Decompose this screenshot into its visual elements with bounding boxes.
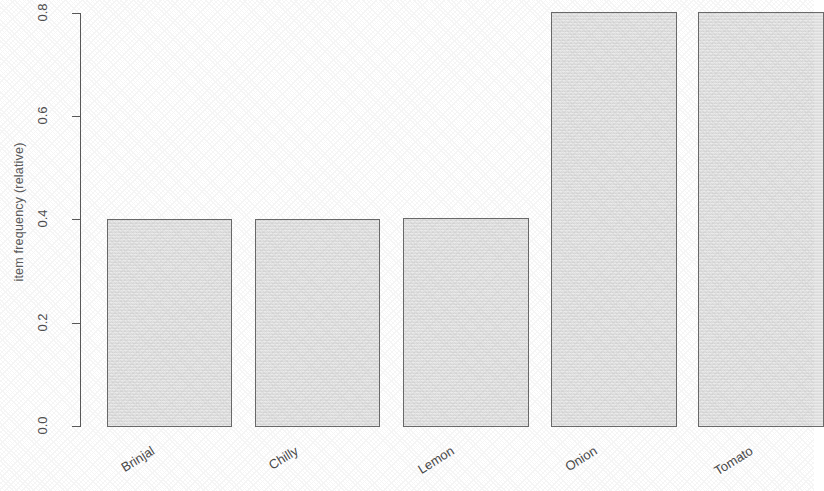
x-axis-label-chilly: Chilly [266,443,301,473]
y-axis-tick-3 [72,116,81,117]
bar-onion [551,12,677,427]
y-axis-tick-label-4: 0.8 [35,0,50,33]
bar-brinjal [107,219,232,427]
bar-chilly [255,219,380,427]
y-axis-tick-1 [72,323,81,324]
x-axis-label-lemon: Lemon [415,443,457,477]
x-axis-label-tomato: Tomato [711,443,755,478]
y-axis-tick-2 [72,219,81,220]
y-axis-tick-label-0: 0.0 [35,406,50,446]
bar-tomato [698,12,824,427]
y-axis-tick-4 [72,13,81,14]
y-axis-tick-label-2: 0.4 [35,199,50,239]
bar-lemon [403,218,529,427]
y-axis-tick-label-3: 0.6 [35,95,50,135]
x-axis-label-onion: Onion [562,443,599,474]
y-axis-tick-label-1: 0.2 [35,302,50,342]
y-axis-title: item frequency (relative) [12,107,26,317]
x-axis-label-brinjal: Brinjal [118,443,157,475]
y-axis-tick-0 [72,426,81,427]
